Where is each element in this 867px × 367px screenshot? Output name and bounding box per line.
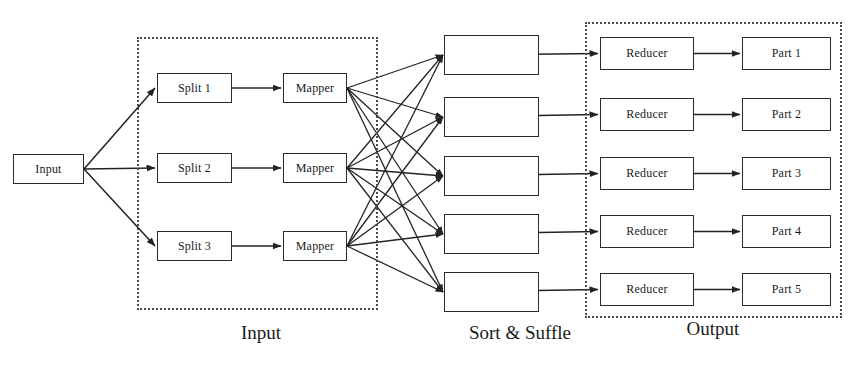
shuffle-box-3[interactable] [444, 156, 539, 196]
group-caption-output-group: Output [648, 318, 778, 340]
mapper-node-2[interactable]: Mapper [283, 153, 347, 183]
mapreduce-diagram: Input Split 1Split 2Split 3 MapperMapper… [0, 0, 867, 367]
part-node-1[interactable]: Part 1 [742, 37, 831, 70]
group-caption-input-group: Input [196, 322, 326, 344]
shuffle-box-2[interactable] [444, 97, 539, 137]
shuffle-box-1[interactable] [444, 35, 539, 75]
input-node[interactable]: Input [13, 154, 84, 184]
group-caption-shuffle-group: Sort & Suffle [430, 322, 610, 344]
reducer-node-3[interactable]: Reducer [600, 157, 694, 190]
shuffle-box-4[interactable] [444, 214, 539, 254]
part-node-2[interactable]: Part 2 [742, 98, 831, 131]
reducer-node-2[interactable]: Reducer [600, 98, 694, 131]
split-node-2[interactable]: Split 2 [157, 153, 232, 183]
split-node-3[interactable]: Split 3 [157, 231, 232, 261]
reducer-node-1[interactable]: Reducer [600, 37, 694, 70]
mapper-node-1[interactable]: Mapper [283, 73, 347, 103]
mapper-node-3[interactable]: Mapper [283, 231, 347, 261]
split-node-1[interactable]: Split 1 [157, 73, 232, 103]
part-node-5[interactable]: Part 5 [742, 273, 831, 306]
shuffle-box-5[interactable] [444, 272, 539, 312]
reducer-node-4[interactable]: Reducer [600, 215, 694, 248]
part-node-3[interactable]: Part 3 [742, 157, 831, 190]
reducer-node-5[interactable]: Reducer [600, 273, 694, 306]
part-node-4[interactable]: Part 4 [742, 215, 831, 248]
